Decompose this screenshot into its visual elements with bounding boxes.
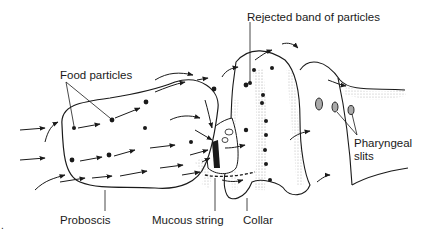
- edge-text-fragment: .: [1, 219, 4, 232]
- rejected-band-label: Rejected band of particles: [247, 11, 380, 24]
- pharyngeal-slits-label: Pharyngeal slits: [354, 137, 412, 163]
- pharyngeal-slits-label-line2: slits: [354, 150, 412, 163]
- proboscis-label: Proboscis: [60, 214, 111, 227]
- mucous-string-label: Mucous string: [152, 214, 224, 227]
- food-particles-label: Food particles: [60, 69, 132, 82]
- pharyngeal-slits-label-line1: Pharyngeal: [354, 137, 412, 150]
- collar-label: Collar: [243, 214, 273, 227]
- acorn-worm-diagram: [0, 0, 423, 237]
